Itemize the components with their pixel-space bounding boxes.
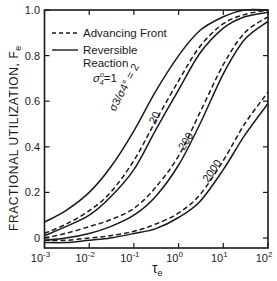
curve-label-200: 200 [176,130,196,152]
x-axis-title: τe [152,260,163,278]
y-tick-label: 0.6 [25,95,40,107]
chart: 00.20.40.60.81.0 10-310-210-1100101102 A… [0,0,277,281]
y-tick-label: 0 [34,232,40,244]
y-tick-label: 0.8 [25,50,40,62]
curve-label-2000: 2000 [200,157,224,184]
curve-200-solid [45,21,269,240]
x-tick-label: 100 [166,250,183,264]
curve-200-dashed [45,17,269,238]
x-tick-label: 102 [256,250,273,264]
legend-solid-label-line2: Reaction [83,57,128,69]
x-tick-label: 101 [211,250,228,264]
legend-dashed-label: Advancing Front [83,27,168,39]
y-tick-label: 0.2 [25,186,40,198]
curve-label-2: σ3/σ4° = 2 [106,61,141,112]
x-tick-label: 10-1 [120,250,140,264]
y-tick-label: 0.4 [25,141,40,153]
y-axis-title: FRACTIONAL UTILIZATION, Fe [7,45,23,231]
legend-solid-label-line1: Reversible [83,44,137,56]
x-tick-label: 10-2 [76,250,96,264]
legend: Advancing Front Reversible Reaction σo4=… [52,27,168,86]
x-tick-label: 10-3 [31,250,51,264]
sigma4-annotation: σo4=1 [93,71,117,86]
y-tick-labels: 00.20.40.60.81.0 [25,4,40,244]
y-tick-label: 1.0 [25,4,40,16]
